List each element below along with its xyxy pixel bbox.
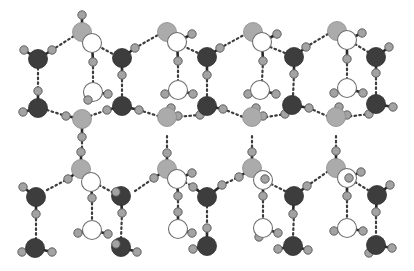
hydrogen-atom xyxy=(304,246,312,254)
oxygen-atom-dark xyxy=(26,239,45,258)
hydrogen-atom xyxy=(89,58,97,66)
oxygen-atom-dark xyxy=(367,236,386,255)
hydrogen-atom xyxy=(235,173,243,181)
hydrogen-atom xyxy=(174,57,182,65)
hydrogen-atom xyxy=(216,44,224,52)
hydrogen-atom xyxy=(302,43,310,51)
hydrogen-atom xyxy=(358,29,366,37)
hydrogen-atom xyxy=(274,245,282,253)
hydrogen-atom xyxy=(189,90,197,98)
oxygen-atom-white xyxy=(83,34,102,53)
oxygen-atom-dark xyxy=(283,96,302,115)
hydrogen-atom xyxy=(372,69,380,77)
hydrogen-atom xyxy=(357,168,365,176)
hydrogen-atom xyxy=(19,108,27,116)
oxygen-atom-white xyxy=(338,219,357,238)
hydrogen-atom xyxy=(305,104,313,112)
hydrogen-atom xyxy=(203,224,211,232)
hydrogen-atom xyxy=(189,183,197,191)
oxygen-atom-white xyxy=(251,81,270,100)
oxygen-atom-dark xyxy=(113,97,132,116)
oxygen-atom-dark xyxy=(368,186,387,205)
hydrogen-atom xyxy=(112,240,120,248)
oxygen-atom-grey xyxy=(243,108,262,127)
hydrogen-atom xyxy=(48,46,56,54)
oxygen-atom-dark xyxy=(285,48,304,67)
oxygen-atom-white xyxy=(338,79,357,98)
hydrogen-atom xyxy=(188,229,196,237)
hydrogen-atom xyxy=(188,169,196,177)
hydrogen-atom xyxy=(104,230,112,238)
oxygen-atom-dark xyxy=(198,188,217,207)
hydrogen-atom xyxy=(161,90,169,98)
oxygen-atom-grey xyxy=(158,108,177,127)
oxygen-atom-dark xyxy=(29,99,48,118)
hydrogen-atom xyxy=(188,30,196,38)
hydrogen-atom xyxy=(372,208,380,216)
hydrogen-atom xyxy=(18,248,26,256)
oxygen-atom-grey xyxy=(73,110,92,129)
hydrogen-atom xyxy=(131,44,139,52)
hydrogen-atom xyxy=(330,89,338,97)
oxygen-atom-dark xyxy=(198,97,217,116)
hydrogen-atom xyxy=(332,147,340,155)
hydrogen-atom xyxy=(62,112,70,120)
hydrogen-atom xyxy=(150,174,158,182)
oxygen-atom-white xyxy=(338,31,357,50)
hydrogen-atom xyxy=(163,149,171,157)
hydrogen-atom xyxy=(135,106,143,114)
oxygen-atom-white xyxy=(169,81,188,100)
hydrogen-atom xyxy=(218,181,226,189)
hydrogen-atom xyxy=(272,90,280,98)
hydrogen-atom xyxy=(118,71,126,79)
hydrogen-atom xyxy=(303,182,311,190)
hydrogen-atom xyxy=(104,90,112,98)
water-lattice-diagram xyxy=(0,0,414,271)
hydrogen-atom xyxy=(174,192,182,200)
hydrogen-atom xyxy=(78,11,86,19)
hydrogen-atom xyxy=(64,175,72,183)
oxygen-atom-dark xyxy=(367,48,386,67)
oxygen-atom-dark xyxy=(198,237,217,256)
hydrogen-atom xyxy=(330,227,338,235)
oxygen-atom-grey xyxy=(327,108,346,127)
hydrogen-atom xyxy=(385,43,393,51)
hydrogen-atom xyxy=(219,105,227,113)
oxygen-atom-white xyxy=(168,170,187,189)
hydrogen-atom xyxy=(359,89,367,97)
hydrogen-atom xyxy=(74,229,82,237)
hydrogen-atom xyxy=(345,174,353,182)
hydrogen-atom xyxy=(343,192,351,200)
hydrogen-atom xyxy=(189,245,197,253)
hydrogen-atom xyxy=(48,248,56,256)
hydrogen-atom xyxy=(274,229,282,237)
hydrogen-atom xyxy=(34,87,42,95)
oxygen-atom-white xyxy=(253,33,272,52)
hydrogen-atom xyxy=(259,57,267,65)
oxygen-atom-dark xyxy=(27,188,46,207)
hydrogen-atom xyxy=(273,30,281,38)
hydrogen-atom xyxy=(388,244,396,252)
hydrogen-atom xyxy=(261,175,269,183)
oxygen-atom-dark xyxy=(285,187,304,206)
hydrogen-atom xyxy=(133,248,141,256)
hydrogen-atom xyxy=(289,210,297,218)
oxygen-atom-dark xyxy=(29,50,48,69)
hydrogen-atom xyxy=(77,148,85,156)
oxygen-atom-white xyxy=(82,173,101,192)
oxygen-atom-dark xyxy=(367,95,386,114)
hydrogen-atom xyxy=(359,227,367,235)
hydrogen-atom xyxy=(103,106,111,114)
hydrogen-atom xyxy=(389,103,397,111)
hydrogen-atom xyxy=(248,148,256,156)
hydrogen-atom xyxy=(78,133,86,141)
hydrogen-atom xyxy=(386,181,394,189)
oxygen-atom-dark xyxy=(284,237,303,256)
oxygen-atom-white xyxy=(83,221,102,240)
hydrogen-atom xyxy=(20,46,28,54)
oxygen-atom-white xyxy=(168,33,187,52)
oxygen-atom-white xyxy=(254,219,273,238)
hydrogen-atom xyxy=(259,192,267,200)
hydrogen-atom xyxy=(32,210,40,218)
oxygen-atom-dark xyxy=(113,49,132,68)
